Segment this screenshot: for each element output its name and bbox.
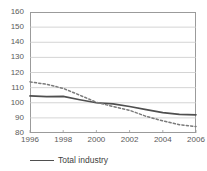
- legend-label-total-industry: Total industry: [58, 156, 108, 165]
- y-tick-label: 150: [11, 23, 24, 31]
- legend-line-swatch-total-industry: [30, 160, 54, 161]
- x-axis-tick-labels: 199619982000200220042006: [30, 136, 196, 148]
- x-tick-label: 2002: [121, 136, 139, 144]
- x-tick-label: 2006: [187, 136, 205, 144]
- x-tick-label: 2000: [87, 136, 105, 144]
- y-tick-label: 90: [15, 114, 24, 122]
- y-tick-label: 100: [11, 99, 24, 107]
- line-chart: 8090100110120130140150160 19961998200020…: [0, 0, 207, 171]
- x-tick-label: 1996: [21, 136, 39, 144]
- series-svg: [30, 12, 196, 133]
- series-line-total-industry: [30, 96, 196, 115]
- x-tick-label: 1998: [54, 136, 72, 144]
- plot-area: [30, 12, 196, 133]
- series-layer: [30, 12, 196, 133]
- y-axis-tick-labels: 8090100110120130140150160: [0, 12, 27, 133]
- chart-title-clipped: [0, 0, 207, 6]
- chart-legend: Total industry: [30, 154, 200, 166]
- y-tick-label: 110: [11, 84, 24, 92]
- y-tick-label: 160: [11, 8, 24, 16]
- y-tick-label: 130: [11, 53, 24, 61]
- y-tick-label: 140: [11, 38, 24, 46]
- x-tick-label: 2004: [154, 136, 172, 144]
- y-tick-label: 120: [11, 69, 24, 77]
